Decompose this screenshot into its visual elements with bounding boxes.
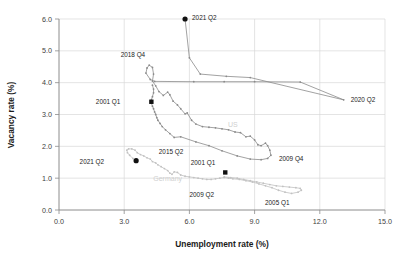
data-point [240, 132, 242, 134]
data-point [164, 168, 166, 170]
data-point [291, 193, 293, 195]
data-point [254, 81, 256, 83]
data-point [234, 131, 236, 133]
data-point [136, 152, 138, 154]
data-point [127, 152, 129, 154]
series-label-germany: Germany [153, 175, 182, 183]
annotation-label: 2001 Q1 [191, 159, 216, 167]
data-point [199, 73, 201, 75]
data-point [282, 186, 284, 188]
data-point [278, 189, 280, 191]
y-axis-title: Vacancy rate (%) [6, 82, 16, 149]
data-point [172, 100, 174, 102]
data-point [169, 94, 171, 96]
y-tick-label: 5.0 [42, 46, 52, 55]
annotation-label: 2009 Q4 [279, 155, 304, 163]
annotation-label: 2009 Q2 [189, 191, 214, 199]
data-point [146, 157, 148, 159]
data-point [159, 123, 161, 125]
y-tick-label: 2.0 [42, 142, 52, 151]
data-point [160, 166, 162, 168]
y-tick-label: 0.0 [42, 206, 52, 215]
x-tick-label: 6.0 [184, 217, 194, 226]
data-point [162, 95, 164, 97]
data-point [249, 158, 251, 160]
highlight-marker-circle [182, 16, 187, 21]
y-tick-label: 3.0 [42, 110, 52, 119]
data-point [157, 164, 159, 166]
series-label-us: US [228, 121, 238, 128]
data-point [256, 181, 258, 183]
data-point [177, 172, 179, 174]
data-point [184, 175, 186, 177]
data-point [275, 185, 277, 187]
highlight-marker-square [223, 170, 227, 174]
data-point [249, 77, 251, 79]
highlight-marker-circle [134, 158, 139, 163]
data-point [169, 133, 171, 135]
data-point [158, 91, 160, 93]
data-point [238, 179, 240, 181]
data-point [202, 178, 204, 180]
data-point [153, 108, 155, 110]
data-point [152, 66, 154, 68]
data-point [232, 178, 234, 180]
data-point [152, 80, 154, 82]
data-point [265, 142, 267, 144]
x-tick-label: 9.0 [250, 217, 260, 226]
annotation-label: 2005 Q1 [265, 199, 290, 207]
x-tick-label: 12.0 [313, 217, 327, 226]
data-point [173, 137, 175, 139]
data-point [252, 181, 254, 183]
data-point [221, 128, 223, 130]
data-point [269, 184, 271, 186]
data-point [155, 114, 157, 116]
data-point [173, 171, 175, 173]
data-point [145, 72, 147, 74]
data-point [186, 112, 188, 114]
data-point [299, 81, 301, 83]
data-point [236, 177, 238, 179]
data-point [131, 148, 133, 150]
data-point [197, 177, 199, 179]
annotation-label: 2015 Q2 [159, 148, 184, 156]
data-point [154, 111, 156, 113]
data-point [184, 113, 186, 115]
x-tick-label: 0.0 [54, 217, 64, 226]
data-point [267, 145, 269, 147]
data-point [297, 191, 299, 193]
data-point [258, 183, 260, 185]
data-point [249, 180, 251, 182]
highlight-marker-square [149, 100, 153, 104]
data-point [143, 155, 145, 157]
data-point [191, 119, 193, 121]
data-point [195, 141, 197, 143]
data-point [249, 135, 251, 137]
data-point [132, 158, 134, 160]
data-point [215, 127, 217, 129]
data-point [215, 178, 217, 180]
data-point [152, 105, 154, 107]
data-point [126, 149, 128, 151]
x-tick-label: 15.0 [378, 217, 392, 226]
data-point [208, 126, 210, 128]
data-point [169, 172, 171, 174]
data-point [245, 180, 247, 182]
data-point [269, 149, 271, 151]
data-point [265, 185, 267, 187]
annotation-label: 2001 Q1 [96, 98, 121, 106]
data-point [152, 84, 154, 86]
data-point [193, 177, 195, 179]
data-point [271, 187, 273, 189]
data-point [267, 158, 269, 160]
data-point [223, 81, 225, 83]
beveridge-curve-chart: USGermany 2021 Q22018 Q42001 Q12020 Q220… [0, 0, 413, 259]
annotation-label: 2021 Q2 [192, 14, 217, 22]
data-point [129, 154, 131, 156]
data-point [236, 155, 238, 157]
y-tick-label: 4.0 [42, 78, 52, 87]
data-point [299, 187, 301, 189]
data-point [146, 67, 148, 69]
data-point [243, 179, 245, 181]
data-point [155, 162, 157, 164]
